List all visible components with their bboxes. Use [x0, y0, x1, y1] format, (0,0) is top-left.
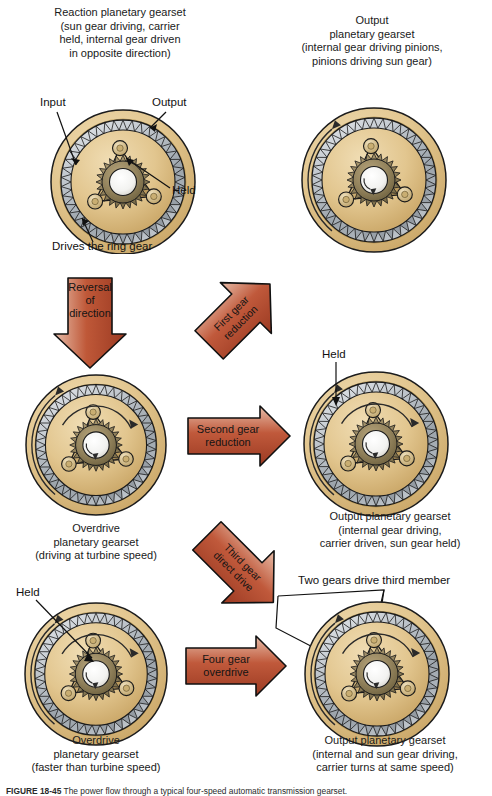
gearset-output-bottom-right	[300, 598, 454, 750]
callout-held-3: Held	[16, 586, 40, 599]
down-arrow-icon	[52, 276, 128, 370]
figure-caption: FIGURE 18-45 The power flow through a ty…	[6, 786, 486, 796]
figure-caption-label: FIGURE 18-45	[6, 786, 61, 796]
callout-output: Output	[152, 96, 187, 109]
gearset-reaction-top-left	[38, 106, 208, 254]
gearset-output-top-right	[290, 104, 458, 254]
gearset-illustration	[290, 104, 458, 254]
caption-row2-right: Output planetary gearset (internal gear …	[290, 510, 490, 551]
arrow-reversal-of-direction: Reversal of direction	[52, 276, 128, 370]
caption-row3-left: Overdrive planetary gearset (faster than…	[4, 734, 188, 775]
arrow-four-gear-overdrive: Four gear overdrive	[184, 634, 288, 698]
gearset-illustration	[38, 106, 208, 254]
up-right-arrow-icon	[180, 262, 292, 374]
right-arrow-icon	[184, 634, 288, 698]
callout-drives-ring-gear: Drives the ring gear	[52, 240, 152, 253]
gearset-illustration	[22, 372, 170, 518]
callout-held-1: Held	[172, 184, 196, 197]
heading-top-left: Reaction planetary gearset (sun gear dri…	[4, 6, 236, 60]
gearset-overdrive-bottom-left	[20, 600, 172, 748]
arrow-third-gear-direct-drive: Third gear direct drive	[178, 508, 298, 626]
gearset-illustration	[20, 600, 172, 748]
arrow-second-gear-reduction: Second gear reduction	[186, 404, 292, 468]
heading-top-right: Output planetary gearset (internal gear …	[256, 14, 488, 68]
right-arrow-icon	[186, 404, 292, 468]
gearset-overdrive-mid-left	[22, 372, 170, 518]
gearset-illustration	[300, 598, 454, 750]
arrow-first-gear-reduction: First gear reduction	[180, 262, 292, 374]
caption-row2-left: Overdrive planetary gearset (driving at …	[6, 522, 186, 563]
caption-row3-right: Output planetary gearset (internal and s…	[280, 734, 490, 775]
callout-held-2: Held	[322, 348, 346, 361]
figure-caption-text: The power flow through a typical four-sp…	[64, 786, 348, 796]
gearset-output-mid-right	[300, 368, 452, 520]
down-right-arrow-icon	[178, 508, 298, 626]
callout-input: Input	[40, 96, 66, 109]
callout-two-gears-drive-third-member: Two gears drive third member	[298, 574, 450, 587]
gearset-illustration	[300, 368, 452, 520]
